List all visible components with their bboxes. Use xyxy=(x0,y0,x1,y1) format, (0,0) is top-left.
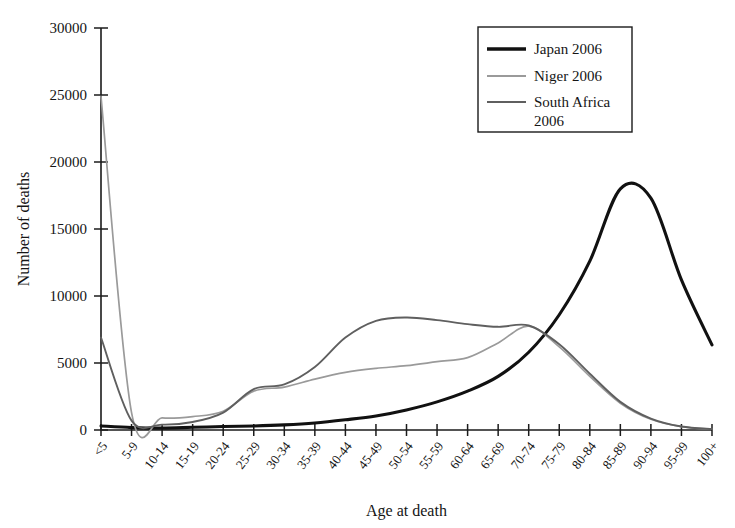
y-tick-label: 10000 xyxy=(50,288,88,304)
x-tick-label: 90-94 xyxy=(630,438,661,472)
x-tick-label: 70-74 xyxy=(508,438,539,472)
y-axis-title: Number of deaths xyxy=(15,172,32,287)
legend-label-2: South Africa xyxy=(534,94,611,110)
x-axis-title: Age at death xyxy=(366,502,447,520)
y-tick-label: 30000 xyxy=(50,20,88,36)
x-tick-label: 100+ xyxy=(693,439,721,469)
x-tick-label: <5 xyxy=(90,439,110,459)
y-tick-label: 25000 xyxy=(50,87,88,103)
series-line-south-africa-2006 xyxy=(101,317,712,429)
x-tick-label: 95-99 xyxy=(660,439,691,472)
x-tick-label: 85-89 xyxy=(599,439,630,472)
x-tick-label: 25-29 xyxy=(233,439,264,472)
series-line-japan-2006 xyxy=(101,183,712,428)
x-tick-label: 65-69 xyxy=(477,439,508,472)
x-tick-label: 45-49 xyxy=(355,439,386,472)
x-tick-label: 20-24 xyxy=(202,438,233,472)
x-tick-label: 30-34 xyxy=(263,438,294,472)
y-tick-label: 0 xyxy=(80,422,88,438)
y-tick-label: 5000 xyxy=(57,355,87,371)
series-line-niger-2006 xyxy=(101,96,712,437)
chart-series-group xyxy=(101,96,712,437)
x-tick-label: 35-39 xyxy=(294,439,325,472)
y-tick-label: 15000 xyxy=(50,221,88,237)
legend-label-0: Japan 2006 xyxy=(534,41,602,57)
x-axis-ticks: <55-910-1415-1920-2425-2930-3435-3940-44… xyxy=(90,424,721,472)
x-tick-label: 80-84 xyxy=(569,438,600,472)
x-tick-label: 10-14 xyxy=(141,438,172,472)
population-mortality-line-chart: 050001000015000200002500030000<55-910-14… xyxy=(0,0,735,528)
chart-figure: 050001000015000200002500030000<55-910-14… xyxy=(0,0,735,528)
x-tick-label: 40-44 xyxy=(324,438,355,472)
y-axis-ticks: 050001000015000200002500030000 xyxy=(50,20,109,438)
x-tick-label: 15-19 xyxy=(172,439,203,472)
chart-legend: Japan 2006Niger 2006South Africa2006 xyxy=(478,27,632,132)
legend-label-2-wrap: 2006 xyxy=(534,113,565,129)
x-tick-label: 60-64 xyxy=(446,438,477,472)
x-tick-label: 50-54 xyxy=(385,438,416,472)
x-tick-label: 75-79 xyxy=(538,439,569,472)
y-tick-label: 20000 xyxy=(50,154,88,170)
x-tick-label: 5-9 xyxy=(118,439,140,462)
legend-label-1: Niger 2006 xyxy=(534,68,602,84)
x-tick-label: 55-59 xyxy=(416,439,447,472)
